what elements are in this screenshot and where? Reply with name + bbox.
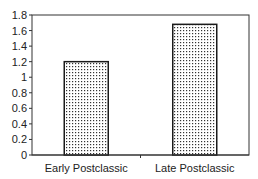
bar [64,62,108,155]
y-axis: 00.20.40.60.811.21.41.61.8 [12,9,32,161]
y-tick-label: 1.8 [12,9,27,21]
y-tick-label: 0.4 [12,118,27,130]
y-tick-label: 0.8 [12,87,27,99]
y-tick-label: 0.2 [12,133,27,145]
bar [173,24,217,155]
y-tick-label: 1.2 [12,56,27,68]
y-tick-label: 1.4 [12,40,27,52]
bars [64,24,217,155]
y-tick-label: 1.6 [12,25,27,37]
bar-chart: 00.20.40.60.811.21.41.61.8 Early Postcla… [0,0,258,179]
x-category-label: Late Postclassic [155,162,235,174]
y-tick-label: 0 [21,149,27,161]
y-tick-label: 0.6 [12,102,27,114]
x-category-label: Early Postclassic [45,162,129,174]
y-tick-label: 1 [21,71,27,83]
x-axis: Early PostclassicLate Postclassic [32,155,249,174]
